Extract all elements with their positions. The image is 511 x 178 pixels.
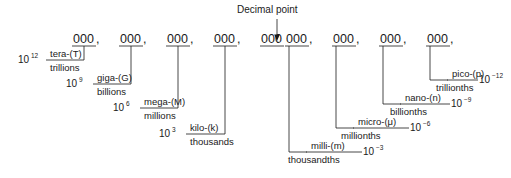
power-of-ten-exponent: −3 — [376, 144, 384, 151]
callout-giga: 10 9 giga-(G) billions — [66, 72, 132, 97]
prefix-label: giga-(G) — [97, 72, 132, 83]
callout-pico: pico-(p) trillionths 10 −12 — [430, 68, 503, 93]
digit-group-ones: 000 — [260, 32, 284, 46]
power-of-ten-exponent: −6 — [423, 120, 431, 127]
magnitude-name: trillionths — [436, 82, 474, 93]
callout-mega: 10 6 mega-(M) millions — [113, 96, 185, 121]
digit-group-comma: , — [309, 32, 312, 46]
digit-group-comma: , — [356, 32, 359, 46]
magnitude-name: millions — [144, 110, 176, 121]
prefix-label: kilo-(k) — [190, 122, 219, 133]
power-of-ten-base: 10 — [18, 54, 30, 65]
digit-group-thousands: 000 , — [213, 32, 240, 134]
digit-group-text: 000 — [286, 32, 307, 46]
prefix-label: tera-(T) — [50, 48, 82, 59]
digit-group-billionths: 000 , — [379, 32, 406, 104]
power-of-ten-base: 10 — [410, 122, 422, 133]
magnitude-name: billions — [97, 86, 126, 97]
magnitude-name: thousandths — [288, 154, 340, 165]
power-of-ten-base: 10 — [363, 146, 375, 157]
magnitude-name: millionths — [341, 130, 381, 141]
callout-nano: nano-(n) billionths 10 −9 — [383, 92, 472, 117]
power-of-ten-exponent: −12 — [492, 72, 503, 79]
callout-kilo: 10 3 kilo-(k) thousands — [159, 122, 234, 147]
magnitude-name: thousands — [190, 136, 234, 147]
power-of-ten-exponent: 9 — [79, 76, 83, 83]
power-of-ten-base: 10 — [159, 128, 171, 139]
digit-group-comma: , — [190, 32, 193, 46]
digit-group-trillionths: 000 , — [426, 32, 453, 80]
power-of-ten-base: 10 — [451, 98, 463, 109]
callout-tera: 10 12 tera-(T) trillions — [18, 48, 84, 73]
magnitude-name: trillions — [50, 62, 80, 73]
digit-group-text: 000 — [380, 32, 401, 46]
digit-group-text: 000 — [427, 32, 448, 46]
power-of-ten-base: 10 — [479, 74, 491, 85]
prefix-label: milli-(m) — [311, 140, 345, 151]
power-of-ten-exponent: 6 — [126, 100, 130, 107]
digit-group-comma: , — [96, 32, 99, 46]
digit-group-comma: , — [403, 32, 406, 46]
power-of-ten-exponent: −9 — [464, 96, 472, 103]
digit-group-text: 000 — [73, 32, 94, 46]
metric-prefix-place-value-diagram: Decimal point 000 , 000 , 000 , 000 — [0, 0, 511, 178]
callout-micro: micro-(μ) millionths 10 −6 — [336, 116, 431, 141]
digit-group-thousandths: 000 , — [285, 32, 312, 152]
power-of-ten-base: 10 — [113, 102, 125, 113]
power-of-ten-exponent: 3 — [172, 126, 176, 133]
prefix-label: nano-(n) — [405, 92, 441, 103]
digit-group-text: 000 — [333, 32, 354, 46]
decimal-point-glyph: . — [276, 32, 279, 46]
digit-group-text: 000 — [167, 32, 188, 46]
digit-group-comma: , — [450, 32, 453, 46]
decimal-point-label: Decimal point — [237, 4, 298, 15]
digit-group-millionths: 000 , — [332, 32, 359, 128]
magnitude-name: billionths — [390, 106, 427, 117]
digit-group-comma: , — [143, 32, 146, 46]
prefix-label: mega-(M) — [144, 96, 185, 107]
power-of-ten-base: 10 — [66, 78, 78, 89]
power-of-ten-exponent: 12 — [31, 52, 39, 59]
prefix-label: micro-(μ) — [358, 116, 396, 127]
digit-group-text: 000 — [214, 32, 235, 46]
digit-group-text: 000 — [120, 32, 141, 46]
digit-group-comma: , — [237, 32, 240, 46]
callout-milli: milli-(m) thousandths 10 −3 — [288, 140, 384, 165]
